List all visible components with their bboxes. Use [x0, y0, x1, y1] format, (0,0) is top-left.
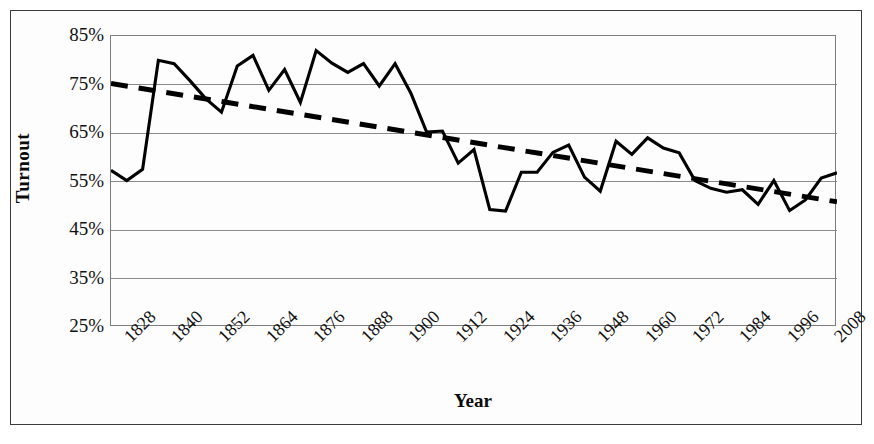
gridlines [111, 85, 837, 279]
y-tick-label: 65% [38, 122, 104, 141]
y-axis-title: Turnout [12, 108, 34, 228]
y-tick-label: 75% [38, 74, 104, 93]
plot-area [110, 35, 836, 326]
y-tick-label: 35% [38, 268, 104, 287]
y-axis-tick-labels: 85%75%65%55%45%35%25% [36, 35, 104, 326]
y-tick-label: 25% [38, 316, 104, 335]
trendline-series [111, 84, 837, 202]
turnout-series [111, 51, 837, 212]
y-tick-label: 85% [38, 25, 104, 44]
plot-svg [111, 36, 837, 327]
chart-figure: Turnout 85%75%65%55%45%35%25% 1828184018… [0, 0, 874, 444]
y-tick-label: 45% [38, 219, 104, 238]
y-tick-label: 55% [38, 171, 104, 190]
x-axis-title: Year [110, 390, 836, 412]
x-axis-tick-labels: 1828184018521864187618881900191219241936… [110, 326, 836, 396]
